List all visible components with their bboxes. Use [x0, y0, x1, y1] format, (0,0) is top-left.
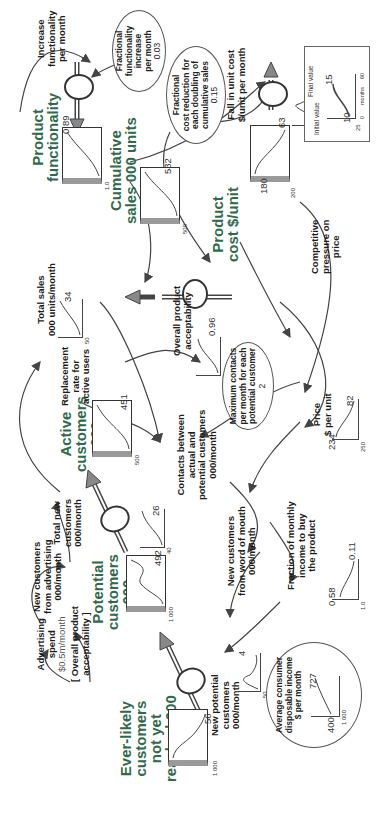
title-line: customers — [73, 396, 88, 472]
legend-initial-label: Initial value — [313, 102, 320, 135]
aux-replacement: Replacement rate for active users — [60, 347, 92, 406]
param-text: Fractional cost reduction for each doubl… — [172, 47, 220, 143]
param-value: 2 — [258, 343, 268, 429]
stock-box-cumulative-sales[interactable] — [140, 167, 180, 224]
aux-competitive-pressure: Competitive pressure on price — [310, 220, 342, 274]
aux-new-from-advertising: New customers from advertising 000/month — [32, 540, 64, 614]
initial-value: 180 — [258, 178, 269, 194]
param-fractional-functionality[interactable]: Fractional functionality increase per mo… — [112, 10, 166, 92]
title-line: functionality — [45, 93, 60, 182]
label-line: potential customers — [197, 410, 208, 500]
label-line: $/unit per month — [237, 48, 248, 122]
stock-title-product-cost: Product cost $/unit — [210, 187, 240, 262]
final-value: 0.96 — [206, 318, 217, 337]
final-value: 0.89 — [60, 116, 71, 135]
param-text: Average consumer disposable income $ per… — [275, 655, 304, 735]
label-line: Fall in unit cost — [226, 48, 237, 122]
label-line: New customers — [226, 506, 237, 596]
aux-new-from-wom: New customers from word of mouth 000/mon… — [226, 506, 258, 596]
label-line: Total sales — [36, 263, 47, 336]
legend-y-max: 25 — [355, 124, 361, 131]
legend-x-end: 60 — [359, 73, 365, 79]
final-value: 532 — [162, 158, 173, 174]
initial-value: 400 — [325, 717, 336, 733]
advertising-spend-value: $0.5m/month — [57, 617, 68, 672]
valve-fall-unit-cost — [258, 81, 288, 107]
label-line: 000/month — [73, 499, 84, 547]
legend-initial-value: 10 — [341, 112, 352, 123]
y-max-label: 1 000 — [168, 607, 174, 622]
final-value: 82 — [344, 395, 355, 406]
legend-x-start: 0 — [359, 116, 365, 119]
param-avg-income[interactable]: Average consumer disposable income $ per… — [266, 642, 362, 748]
sparkline — [141, 168, 179, 218]
sparkline — [251, 126, 289, 176]
flow-label-fall-unit-cost: Fall in unit cost $/unit per month — [226, 48, 247, 122]
label-line: New customers — [32, 540, 43, 614]
y-max-label: 250 — [360, 442, 366, 452]
stock-flow-diagram: Ever-likely customers not yet reached 00… — [0, 0, 385, 822]
mini-chart-new-potential — [236, 653, 261, 692]
param-fractional-cost-reduction[interactable]: Fractional cost reduction for each doubl… — [166, 46, 226, 144]
label-line: Increase — [36, 11, 47, 67]
initial-value: 234 — [326, 434, 337, 450]
title-line: Product — [210, 187, 225, 262]
param-text: Fractional functionality increase per mo… — [115, 11, 163, 91]
flow-label-increase-functionality: Increase functionality per month — [36, 11, 68, 67]
label-line: price — [331, 220, 342, 274]
aux-contacts: Contacts between actual and potential cu… — [176, 410, 218, 500]
label-line: Replacement — [60, 347, 71, 406]
label-line: Contacts between — [176, 410, 187, 500]
label-line: Fraction of monthly — [286, 501, 297, 590]
aux-price: Price $ per unit — [312, 393, 333, 436]
label-line: Advertising — [36, 617, 47, 672]
y-max-label: 200 — [290, 188, 296, 198]
mini-chart-total-sales — [58, 299, 83, 338]
param-value: 0.15 — [210, 47, 220, 143]
label-line: 000/month — [247, 506, 258, 596]
final-value: 727 — [307, 673, 318, 689]
label-line: Overall product — [172, 286, 183, 356]
stock-title-product-functionality: Product functionality — [30, 93, 60, 182]
label-line: $ per month — [294, 655, 304, 735]
label-line: 000 units/month — [47, 263, 58, 336]
initial-value: 0.58 — [326, 588, 337, 607]
title-line: cost $/unit — [225, 187, 240, 262]
flow-label-total-sales: Total sales 000 units/month — [36, 263, 57, 336]
y-max-label: 1 000 — [212, 761, 218, 776]
y-max-label: 1 000 — [341, 710, 347, 725]
stock-title-cumulative-sales: Cumulative sales 000 units — [108, 117, 138, 224]
title-line: Cumulative — [108, 117, 123, 224]
y-max-label: 1.0 — [360, 602, 366, 610]
label-line: New potential — [210, 674, 221, 736]
aux-overall-acceptability: Overall product acceptability — [172, 286, 193, 356]
label-line: acceptability ] — [81, 606, 92, 682]
final-value: 63 — [276, 117, 287, 128]
title-line: Potential — [90, 554, 105, 630]
param-max-contacts[interactable]: Maximum contacts per month for each pote… — [222, 342, 274, 430]
title-line: sales 000 units — [123, 117, 138, 224]
label-line: Price — [312, 393, 323, 436]
y-max-label: 50 — [84, 337, 90, 344]
legend-final-label: Final value — [307, 66, 314, 97]
final-value: 492 — [152, 550, 163, 566]
label-line: Competitive — [310, 220, 321, 274]
label-line: 000/month — [208, 410, 219, 500]
title-line: customers — [105, 554, 120, 630]
y-max-label: 40 — [166, 547, 172, 554]
sparkline — [63, 128, 101, 178]
label-line: the product — [307, 501, 318, 590]
title-line: Ever-likely — [118, 695, 133, 782]
final-value: 26 — [150, 505, 161, 516]
valve-increase-functionality — [64, 74, 94, 100]
aux-acceptability-ref: [ Overall product acceptability ] — [70, 606, 91, 682]
legend-box: Initial value Final value 25 10 15 0 mon… — [304, 46, 370, 142]
label-line: acceptability — [183, 286, 194, 356]
label-line: [ Overall product — [70, 606, 81, 682]
stock-box-product-cost[interactable] — [250, 125, 290, 182]
label-line: per month — [57, 11, 68, 67]
final-value: 34 — [62, 291, 73, 302]
aux-advertising-spend: Advertising spend $0.5m/month — [36, 617, 68, 672]
y-max-label: 500 — [182, 224, 188, 234]
stock-box-product-functionality[interactable] — [62, 127, 102, 184]
